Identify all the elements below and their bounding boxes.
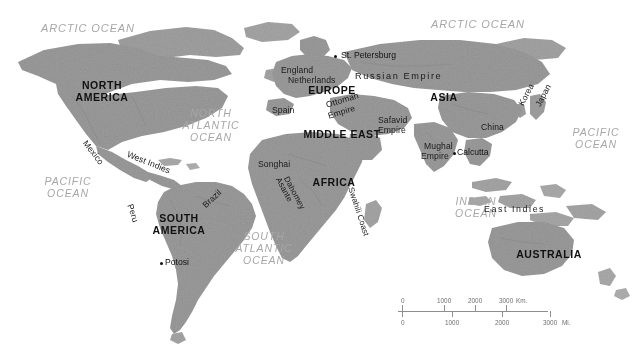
scale-number-km: 0 (401, 297, 405, 304)
world-map: ARCTIC OCEAN ARCTIC OCEAN NORTHATLANTICO… (0, 0, 643, 356)
scale-number-mi: 0 (401, 319, 405, 326)
scale-tick-mi (402, 311, 403, 317)
scale-tick-mi (550, 311, 551, 317)
scale-unit-mi: Mi. (562, 319, 571, 326)
scale-tick-mi (452, 311, 453, 317)
scale-number-mi: 3000 (543, 319, 557, 326)
scale-number-mi: 2000 (495, 319, 509, 326)
scale-bar: 0100020003000Km.0100020003000Mi. (394, 296, 562, 330)
scale-number-mi: 1000 (445, 319, 459, 326)
scale-number-km: 3000 (499, 297, 513, 304)
scale-number-km: 1000 (437, 297, 451, 304)
scale-tick-km (444, 305, 445, 311)
scale-tick-km (475, 305, 476, 311)
scale-bar-axis (398, 311, 548, 312)
scale-unit-km: Km. (516, 297, 527, 304)
scale-tick-km (506, 305, 507, 311)
scale-number-km: 2000 (468, 297, 482, 304)
scale-tick-mi (502, 311, 503, 317)
